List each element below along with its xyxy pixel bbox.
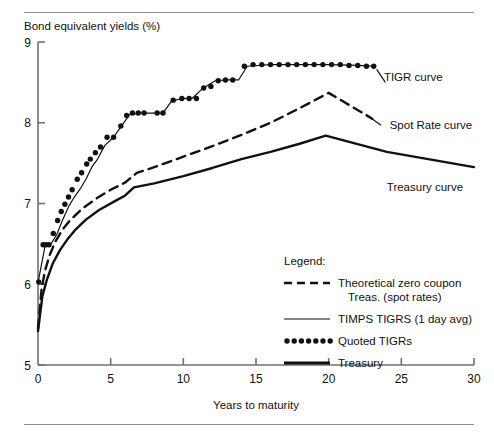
data-point-marker: [130, 110, 135, 115]
legend-title: Legend:: [284, 255, 326, 267]
data-point-marker: [311, 62, 316, 67]
data-point-marker: [268, 62, 273, 67]
data-point-marker: [136, 110, 141, 115]
data-point-marker: [55, 218, 60, 223]
data-point-marker: [124, 113, 129, 118]
data-point-marker: [79, 170, 84, 175]
legend-entry: Theoretical zero couponTreas. (spot rate…: [284, 277, 461, 303]
data-point-marker: [250, 62, 255, 67]
x-axis-tick-label: 20: [322, 372, 336, 386]
data-point-marker: [186, 96, 191, 101]
data-point-marker: [320, 62, 325, 67]
data-point-marker: [104, 135, 109, 140]
data-point-marker: [75, 177, 80, 182]
y-axis-tick-label: 5: [24, 359, 31, 373]
data-point-marker: [84, 161, 89, 166]
x-axis-tick-label: 5: [107, 372, 114, 386]
data-point-marker: [194, 96, 199, 101]
legend-entry: TIMPS TIGRS (1 day avg): [284, 313, 472, 325]
legend-entry: Quoted TIGRs: [284, 335, 412, 347]
curve-annotation-label: Treasury curve: [387, 181, 463, 193]
x-axis-tick-label: 25: [395, 372, 409, 386]
data-point-marker: [201, 85, 206, 90]
data-point-marker: [179, 96, 184, 101]
data-point-marker: [51, 231, 56, 236]
data-point-marker: [98, 144, 103, 149]
chart-axes: 56789051015202530Years to maturity: [24, 36, 481, 412]
data-point-marker: [111, 135, 116, 140]
data-point-marker: [208, 84, 213, 89]
legend-entry-label: Treasury: [338, 357, 383, 369]
data-point-marker: [59, 209, 64, 214]
data-point-marker: [294, 62, 299, 67]
data-point-marker: [230, 77, 235, 82]
legend-swatch-dot: [320, 338, 325, 343]
data-point-marker: [242, 64, 247, 69]
data-point-marker: [303, 62, 308, 67]
data-point-marker: [364, 64, 369, 69]
data-point-marker: [66, 194, 71, 199]
legend-swatch-dot: [313, 338, 318, 343]
bottom-divider-rule: [24, 424, 474, 425]
data-point-marker: [355, 63, 360, 68]
data-point-marker: [160, 110, 165, 115]
series-timps-tigrs-curve: [38, 65, 375, 283]
curve-annotation-label: Spot Rate curve: [390, 119, 472, 131]
x-axis-tick-label: 0: [35, 372, 42, 386]
data-point-marker: [154, 110, 159, 115]
data-point-marker: [338, 62, 343, 67]
data-point-marker: [277, 62, 282, 67]
data-point-marker: [223, 77, 228, 82]
data-point-marker: [141, 110, 146, 115]
data-point-marker: [36, 279, 41, 284]
series-spot-rate-curve: [38, 93, 372, 329]
y-axis-tick-label: 6: [24, 278, 31, 292]
y-axis-tick-label: 7: [24, 197, 31, 211]
data-point-marker: [259, 62, 264, 67]
data-point-marker: [62, 202, 67, 207]
series-quoted-tigrs: [36, 62, 376, 285]
curve-annotation-label: TIGR curve: [384, 71, 443, 83]
x-axis-tick-label: 30: [467, 372, 481, 386]
legend-swatch-dot: [284, 338, 289, 343]
data-point-marker: [118, 123, 123, 128]
legend-entry-label: TIMPS TIGRS (1 day avg): [338, 313, 472, 325]
x-axis-tick-label: 10: [177, 372, 191, 386]
data-point-marker: [46, 242, 51, 247]
legend-swatch-dot: [292, 338, 297, 343]
curve-annotations: TIGR curveSpot Rate curveTreasury curve: [366, 69, 472, 193]
data-point-marker: [329, 62, 334, 67]
legend-entry-label: Quoted TIGRs: [338, 335, 412, 347]
legend-entry-label-line2: Treas. (spot rates): [348, 291, 442, 303]
legend-entry-label: Theoretical zero coupon: [338, 277, 461, 289]
y-axis-tick-label: 9: [24, 36, 31, 50]
x-axis-title: Years to maturity: [213, 399, 299, 411]
y-axis-tick-label: 8: [24, 116, 31, 130]
data-point-marker: [88, 156, 93, 161]
legend-swatch-dot: [306, 338, 311, 343]
data-point-marker: [346, 63, 351, 68]
annotation-leader-line: [366, 115, 381, 125]
data-point-marker: [285, 62, 290, 67]
legend-entry: Treasury: [284, 357, 383, 369]
data-point-marker: [216, 78, 221, 83]
data-point-marker: [93, 150, 98, 155]
data-point-marker: [371, 64, 376, 69]
data-point-marker: [69, 187, 74, 192]
data-point-marker: [170, 97, 175, 102]
x-axis-tick-label: 15: [249, 372, 263, 386]
legend-swatch-dot: [328, 338, 333, 343]
chart-legend: Legend:Theoretical zero couponTreas. (sp…: [284, 255, 472, 369]
legend-swatch-dot: [299, 338, 304, 343]
yield-curve-chart: 56789051015202530Years to maturity TIGR …: [0, 0, 494, 440]
